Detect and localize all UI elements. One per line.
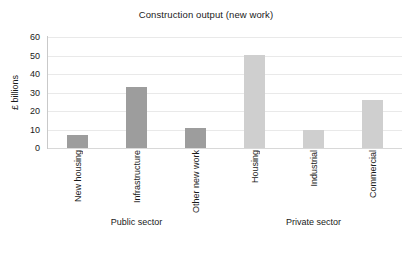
gridline-20	[48, 111, 402, 112]
y-tick-10: 10	[30, 125, 40, 135]
y-tick-30: 30	[30, 88, 40, 98]
x-label-new-housing: New housing	[73, 150, 83, 202]
plot-area	[48, 37, 402, 148]
bar-other-new-work[interactable]	[185, 128, 206, 148]
group-label-private-sector: Private sector	[264, 217, 364, 227]
y-tick-40: 40	[30, 69, 40, 79]
x-label-other-new-work: Other new work	[191, 150, 201, 213]
bar-new-housing[interactable]	[67, 135, 88, 148]
gridline-60	[48, 37, 402, 38]
x-label-infrastructure: Infrastructure	[132, 150, 142, 203]
gridline-0	[48, 148, 402, 149]
bar-housing[interactable]	[244, 55, 265, 148]
y-tick-20: 20	[30, 106, 40, 116]
bar-chart: Construction output (new work) £ billion…	[0, 0, 412, 257]
bar-infrastructure[interactable]	[126, 87, 147, 148]
bar-commercial[interactable]	[362, 100, 383, 148]
gridline-10	[48, 130, 402, 131]
y-tick-50: 50	[30, 51, 40, 61]
x-label-industrial: Industrial	[309, 150, 319, 187]
x-label-commercial: Commercial	[368, 150, 378, 198]
gridline-30	[48, 93, 402, 94]
gridline-50	[48, 56, 402, 57]
y-axis-tick-labels: 6050403020100	[0, 37, 44, 148]
x-label-housing: Housing	[250, 150, 260, 183]
group-label-public-sector: Public sector	[87, 217, 187, 227]
chart-title: Construction output (new work)	[0, 9, 412, 20]
gridline-40	[48, 74, 402, 75]
y-tick-60: 60	[30, 32, 40, 42]
bar-industrial[interactable]	[303, 130, 324, 148]
x-axis-category-labels: New housingInfrastructureOther new workH…	[48, 150, 402, 210]
y-tick-0: 0	[35, 143, 40, 153]
